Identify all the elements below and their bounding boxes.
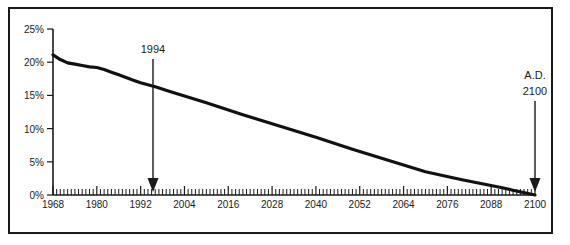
x-tick-label-1980: 1980 bbox=[86, 199, 109, 210]
x-tick-label-2004: 2004 bbox=[173, 199, 196, 210]
y-tick-label-20: 20% bbox=[24, 57, 44, 68]
data-series-line bbox=[53, 55, 535, 195]
x-axis-minor-ticks bbox=[53, 186, 535, 195]
x-tick-label-1968: 1968 bbox=[42, 199, 65, 210]
y-tick-label-25: 25% bbox=[24, 24, 44, 35]
x-tick-label-2088: 2088 bbox=[480, 199, 503, 210]
x-tick-label-2076: 2076 bbox=[436, 199, 459, 210]
y-tick-label-10: 10% bbox=[24, 124, 44, 135]
annotation-2100-label-line2: 2100 bbox=[523, 85, 547, 97]
x-tick-label-2064: 2064 bbox=[392, 199, 415, 210]
annotation-1994: 1994 bbox=[141, 43, 165, 192]
annotation-1994-arrow-head bbox=[148, 178, 159, 192]
x-tick-label-1992: 1992 bbox=[130, 199, 153, 210]
x-tick-label-2040: 2040 bbox=[305, 199, 328, 210]
y-tick-label-15: 15% bbox=[24, 90, 44, 101]
annotation-ad-2100: A.D. 2100 bbox=[523, 69, 547, 192]
line-chart: 25% 20% 15% 10% 5% 0% 196819801992200420… bbox=[0, 0, 570, 245]
annotation-1994-label: 1994 bbox=[141, 43, 165, 55]
x-tick-label-2028: 2028 bbox=[261, 199, 284, 210]
x-tick-label-2016: 2016 bbox=[217, 199, 240, 210]
annotation-2100-label-line1: A.D. bbox=[524, 69, 545, 81]
x-tick-label-2100: 2100 bbox=[524, 199, 547, 210]
chart-screenshot: 25% 20% 15% 10% 5% 0% 196819801992200420… bbox=[0, 0, 570, 245]
y-axis-tick-labels: 25% 20% 15% 10% 5% 0% bbox=[24, 24, 44, 201]
y-tick-label-5: 5% bbox=[30, 157, 45, 168]
x-axis-tick-labels: 1968198019922004201620282040205220642076… bbox=[42, 199, 547, 210]
x-tick-label-2052: 2052 bbox=[349, 199, 372, 210]
